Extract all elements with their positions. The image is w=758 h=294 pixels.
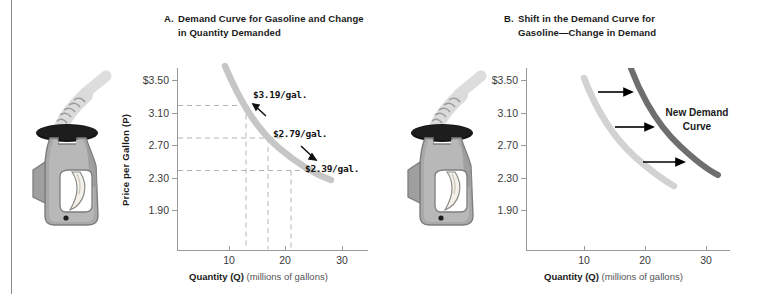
panel-b-plot: $3.50 3.10 2.70 2.30 1.90 10 20 30 Quant… (502, 68, 732, 258)
panel-a: A. Demand Curve for Gasoline and Change … (12, 0, 392, 294)
panel-b-xlabel-0: 10 (564, 254, 604, 266)
panel-a-x-axis-title-bold: Quantity (Q) (189, 271, 244, 282)
panel-a-x-axis-title: Quantity (Q) (millions of gallons) (189, 271, 328, 282)
panel-b-title-line2: Gasoline—Change in Demand (518, 26, 714, 40)
panel-b-xlabel-1: 20 (625, 254, 665, 266)
panel-b-curve-label: New Demand Curve (654, 106, 740, 134)
gas-pump-nozzle-icon (20, 58, 116, 243)
panel-a-letter: A. (164, 12, 174, 26)
panel-a-annotation-1: $2.79/gal. (273, 128, 327, 139)
panel-a-title: A. Demand Curve for Gasoline and Change … (164, 12, 379, 39)
panel-a-y-axis-title: Price per Gallon (P) (120, 114, 131, 206)
panel-b-xlabel-2: 30 (686, 254, 726, 266)
panel-a-title-line1: Demand Curve for Gasoline and Change (178, 12, 379, 26)
panel-b-letter: B. (504, 12, 514, 26)
figure-root: A. Demand Curve for Gasoline and Change … (0, 0, 758, 294)
panel-b-curves-svg (502, 68, 732, 251)
panel-b-x-axis-title-bold: Quantity (Q) (544, 271, 599, 282)
panel-b-title-line1: Shift in the Demand Curve for (518, 12, 714, 26)
panel-b-curve-label-line1: New Demand (666, 107, 729, 118)
panel-b-title: B. Shift in the Demand Curve for Gasolin… (504, 12, 714, 39)
panel-b: B. Shift in the Demand Curve for Gasolin… (392, 0, 758, 294)
panel-a-title-line2: in Quantity Demanded (178, 26, 379, 40)
panel-a-annotation-0: $3.19/gal. (253, 89, 307, 100)
panel-b-x-axis-title: Quantity (Q) (millions of gallons) (544, 271, 683, 282)
panel-a-plot: Price per Gallon (P) $3.50 3.10 2.70 2.3… (153, 68, 368, 258)
panel-b-x-axis-title-rest: (millions of gallons) (599, 271, 683, 282)
panel-a-x-axis-title-rest: (millions of gallons) (244, 271, 328, 282)
panel-a-annotation-2: $2.39/gal. (305, 163, 359, 174)
panel-b-curve-label-line2: Curve (683, 121, 711, 132)
